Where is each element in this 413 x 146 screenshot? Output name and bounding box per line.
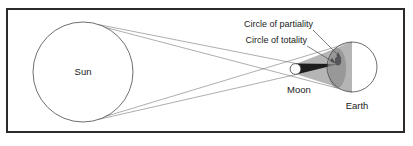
moon-label: Moon: [287, 84, 311, 95]
earth-label: Earth: [346, 100, 369, 111]
circle-of-partiality-label: Circle of partiality: [244, 19, 314, 29]
eclipse-diagram-figure: Sun Moon Earth Circle of partiality Circ…: [0, 0, 413, 146]
circle-of-totality-label: Circle of totality: [245, 35, 307, 45]
eclipse-diagram-svg: Sun Moon Earth Circle of partiality Circ…: [0, 0, 413, 146]
sun-label: Sun: [75, 66, 92, 77]
moon-body: [290, 64, 301, 75]
umbra-spot-on-earth: [335, 57, 341, 66]
